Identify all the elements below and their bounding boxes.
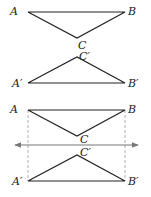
label-c-prime-2: C′ <box>80 146 91 159</box>
triangle-a-prime-b-prime-c-prime <box>28 57 125 83</box>
label-b-prime-2: B′ <box>127 175 139 188</box>
label-c-prime: C′ <box>79 50 90 63</box>
figure-1: A B C A′ B′ C′ <box>9 5 139 90</box>
label-a-2: A <box>9 103 18 116</box>
label-c-2: C <box>80 133 89 146</box>
reflection-diagram: A B C A′ B′ C′ A B C A′ B′ C′ <box>0 0 151 197</box>
label-b: B <box>127 5 136 18</box>
label-b-2: B <box>127 103 136 116</box>
label-a-prime: A′ <box>11 77 23 90</box>
triangle-abc-2 <box>28 110 125 136</box>
label-a: A <box>9 5 18 18</box>
label-a-prime-2: A′ <box>11 175 23 188</box>
triangle-a-prime-b-prime-c-prime-2 <box>28 155 125 181</box>
triangle-abc <box>28 12 125 38</box>
label-b-prime: B′ <box>127 77 139 90</box>
figure-2: A B C A′ B′ C′ <box>9 103 139 188</box>
